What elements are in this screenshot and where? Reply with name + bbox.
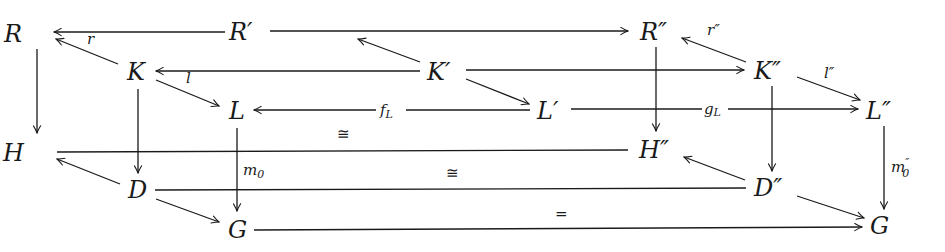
node-H: H xyxy=(2,139,25,167)
edge-Dpp-to-Hpp xyxy=(684,157,745,180)
edge-Kp-to-Rp xyxy=(358,39,420,62)
node-L: L xyxy=(228,97,245,125)
label-r-double-prime: r″ xyxy=(707,21,720,39)
edge-labels: r l r″ l″ fL gL m0 m″0 ≅ ≅ = xyxy=(87,21,910,223)
label-equal-G: = xyxy=(555,205,568,223)
edge-Dpp-to-G2 xyxy=(797,196,864,218)
node-K: K xyxy=(126,58,147,86)
node-D-double-prime: D″ xyxy=(753,174,782,202)
label-m0: m0 xyxy=(243,161,264,181)
edge-Kpp-to-Rpp xyxy=(682,38,746,62)
edge-D-to-G xyxy=(156,199,219,222)
node-R-prime: R′ xyxy=(228,18,253,46)
node-D: D xyxy=(127,176,147,204)
label-l: l xyxy=(186,69,191,87)
label-f-L: fL xyxy=(376,100,406,121)
label-iso-H: ≅ xyxy=(337,125,350,143)
node-L-prime: L′ xyxy=(536,97,559,125)
label-r: r xyxy=(87,30,95,48)
node-K-double-prime: K″ xyxy=(753,57,781,85)
node-G: G xyxy=(228,216,247,244)
edge-G-to-G2 xyxy=(254,227,862,230)
node-R-double-prime: R″ xyxy=(639,18,667,46)
node-L-double-prime: L″ xyxy=(865,97,891,125)
edge-Kp-to-Lp xyxy=(466,79,529,104)
label-m0-double-prime: m″0 xyxy=(891,156,910,180)
label-l-double-prime: l″ xyxy=(824,64,835,82)
label-iso-D: ≅ xyxy=(446,164,459,182)
label-g-L: gL xyxy=(702,100,728,119)
nodes: R R′ R″ K K′ K″ L L′ L″ H H″ D D″ G G xyxy=(2,18,891,244)
node-H-double-prime: H″ xyxy=(638,136,669,164)
node-R: R xyxy=(3,20,22,48)
edge-D-to-Dpp xyxy=(155,188,746,190)
edge-H-to-Hpp xyxy=(57,150,628,152)
node-K-prime: K′ xyxy=(426,58,451,86)
node-G-right: G xyxy=(870,212,889,240)
commutative-diagram: R R′ R″ K K′ K″ L L′ L″ H H″ D D″ G G r … xyxy=(0,0,945,252)
edge-D-to-H xyxy=(57,159,120,184)
